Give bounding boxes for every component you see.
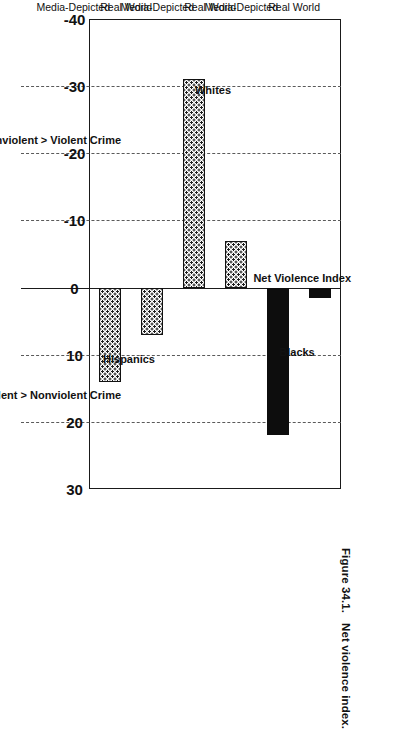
axis-tick-label: 30 <box>66 481 83 498</box>
axis-tick-label: 10 <box>66 346 83 363</box>
bar <box>141 288 163 335</box>
axis-tick-label: -20 <box>64 145 86 162</box>
chart-rotated-stage: -40-30-20-100102030Nonviolent > Violent … <box>21 19 341 489</box>
axis-tick-label: -40 <box>64 11 86 28</box>
group-label: Hispanics <box>103 353 155 365</box>
group-label: Blacks <box>279 346 314 358</box>
figure-number: Figure 34.1. <box>340 548 352 613</box>
axis-title-negative-direction: Nonviolent > Violent Crime <box>0 134 121 146</box>
category-label: Media-Depicted <box>36 1 110 13</box>
bar <box>183 79 205 287</box>
axis-title-positive-direction: Violent > Nonviolent Crime <box>0 389 121 401</box>
axis-tick-label: 20 <box>66 413 83 430</box>
figure-caption-text: Net violence index. <box>340 623 352 729</box>
bar <box>99 288 121 382</box>
group-label: Whites <box>195 84 231 96</box>
figure-caption: Figure 34.1. Net violence index. <box>340 548 352 708</box>
bar <box>309 288 331 298</box>
axis-tick-label: -30 <box>64 78 86 95</box>
axis-tick-label: 0 <box>70 279 78 296</box>
bar <box>267 288 289 436</box>
value-axis-label: Net Violence Index <box>253 272 351 284</box>
bar <box>225 241 247 288</box>
axis-tick-label: -10 <box>64 212 86 229</box>
zero-axis-line <box>21 288 341 289</box>
